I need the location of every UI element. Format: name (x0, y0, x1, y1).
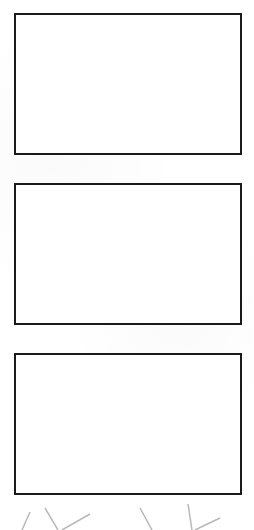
empty-panel-1 (14, 13, 242, 155)
empty-panel-2 (14, 183, 242, 325)
empty-panel-3 (14, 353, 242, 495)
decorative-strokes-icon (0, 500, 254, 530)
